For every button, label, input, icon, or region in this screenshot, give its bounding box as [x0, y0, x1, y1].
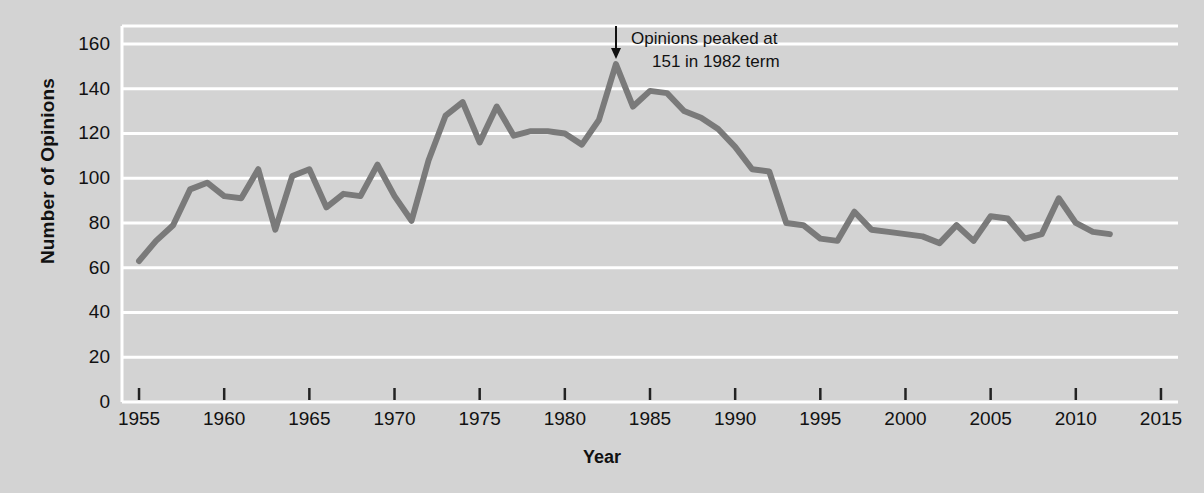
x-axis-tick-marks	[139, 388, 1161, 400]
annotation-line-1: Opinions peaked at	[631, 28, 778, 50]
plot-area	[0, 0, 1204, 493]
down-arrow-icon	[608, 26, 624, 60]
data-series-line	[139, 64, 1110, 261]
chart-container: Number of Opinions Year 0204060801001201…	[0, 0, 1204, 493]
annotation-line-2: 151 in 1982 term	[652, 51, 780, 73]
